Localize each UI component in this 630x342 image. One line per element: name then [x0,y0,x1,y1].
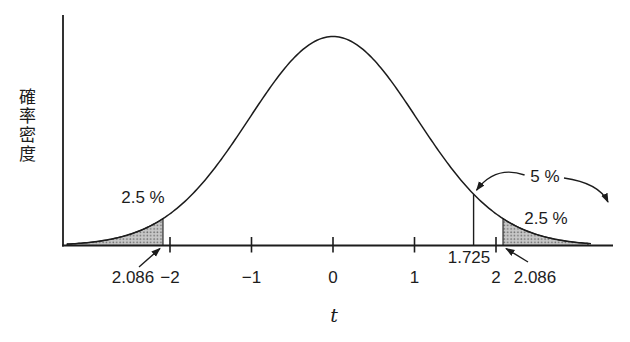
one-sided-critical-value-label: 1.725 [448,248,491,267]
right-critical-arrow [506,249,528,263]
five-pct-to-tail-arrow [564,178,608,202]
x-tick-label: −2 [160,268,179,287]
left-tail-percentage-label: 2.5 % [121,188,164,207]
left-tail-shaded-region [67,219,163,246]
x-axis-label: t [330,304,338,326]
five-pct-to-critical-arrow [477,172,525,190]
density-curve [67,37,591,245]
x-tick-label: −1 [242,268,261,287]
distribution-plot: −2−1012 2.5 % 2.5 % 5 % 1.725 2.086 2.08… [0,0,630,342]
right-critical-value-label: 2.086 [514,268,557,287]
left-critical-arrow [139,249,160,268]
left-critical-value-label: 2.086 [112,268,155,287]
x-tick-label: 2 [491,268,500,287]
x-tick-label: 0 [328,268,337,287]
x-tick-label: 1 [410,268,419,287]
right-tail-percentage-label: 2.5 % [524,209,567,228]
t-distribution-figure: 確率密度 −2−1012 2.5 % 2.5 % 5 % 1. [0,0,630,342]
one-sided-percentage-label: 5 % [530,167,559,186]
